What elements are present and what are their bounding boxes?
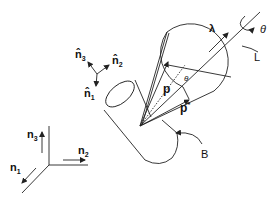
body-b-leader <box>176 133 202 144</box>
theta-rotation-label: θ <box>260 23 266 35</box>
n1-label: n1 <box>10 161 21 175</box>
body-b-label: B <box>201 148 208 160</box>
nhat1-label: n̂1 <box>84 87 95 101</box>
p-star-label: p* <box>180 100 191 115</box>
nhat3-label: n̂3 <box>75 48 86 62</box>
n2-label: n2 <box>78 144 89 158</box>
line-l-label: L <box>254 51 260 63</box>
rotation-arrow-icon <box>240 16 254 30</box>
diagram-canvas: λ θ L θ p p* B n̂3 n̂2 n̂1 n3 n2 n1 <box>0 0 279 203</box>
lambda-label: λ <box>209 22 215 34</box>
n3-label: n3 <box>27 128 38 142</box>
p-label: p <box>163 82 170 96</box>
nhat-frame <box>88 62 109 86</box>
nhat2-label: n̂2 <box>112 54 123 68</box>
theta-cone-label: θ <box>184 74 189 83</box>
